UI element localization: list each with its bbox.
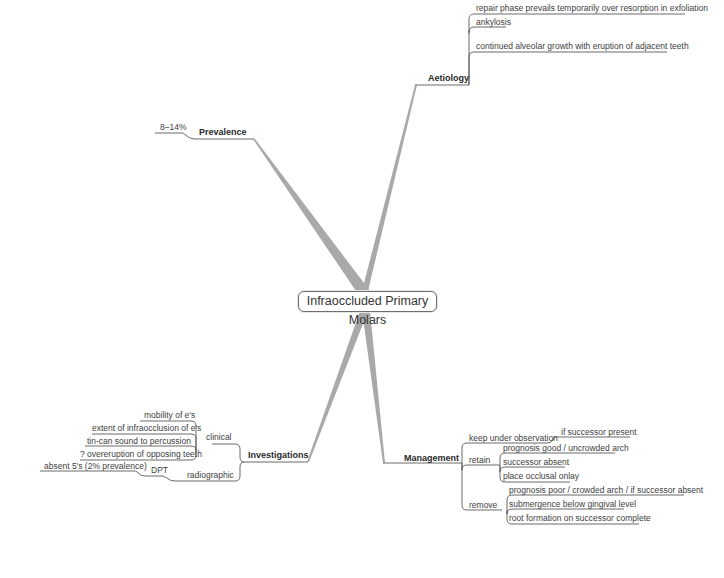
branch-prevalence [253, 139, 370, 291]
remove-item[interactable]: prognosis poor / crowded arch / if succe… [509, 485, 703, 495]
retain-item[interactable]: prognosis good / uncrowded arch [503, 443, 629, 453]
central-topic[interactable]: Infraoccluded Primary Molars [298, 291, 437, 312]
management-keep[interactable]: keep under observation [469, 433, 558, 443]
topic-prevalence[interactable]: Prevalence [199, 127, 247, 137]
investigations-clinical[interactable]: clinical [206, 432, 232, 442]
management-remove[interactable]: remove [469, 500, 497, 510]
mind-map-canvas: Infraoccluded Primary Molars Aetiology r… [0, 0, 724, 578]
investigations-radiographic[interactable]: radiographic [187, 470, 234, 480]
clinical-item[interactable]: mobility of e's [144, 410, 195, 420]
radiographic-dpt[interactable]: DPT [151, 465, 168, 475]
clinical-item[interactable]: tin-can sound to percussion [87, 436, 191, 446]
clinical-item[interactable]: extent of infraocclusion of e's [92, 423, 201, 433]
branch-investigations [307, 311, 368, 462]
aetiology-item[interactable]: continued alveolar growth with eruption … [476, 41, 689, 51]
dpt-item[interactable]: absent 5's (2% prevalence) [44, 461, 147, 471]
retain-item[interactable]: place occlusal onlay [503, 471, 579, 481]
branch-aetiology [362, 85, 417, 291]
clinical-item[interactable]: ? overeruption of opposing teeth [80, 449, 202, 459]
remove-item[interactable]: root formation on successor complete [509, 513, 651, 523]
remove-item[interactable]: submergence below gingival level [509, 499, 636, 509]
aetiology-item[interactable]: repair phase prevails temporarily over r… [476, 3, 708, 13]
topic-investigations[interactable]: Investigations [248, 450, 309, 460]
prevalence-value[interactable]: 8–14% [160, 122, 186, 132]
branch-management [362, 311, 385, 463]
topic-aetiology[interactable]: Aetiology [428, 73, 469, 83]
management-retain[interactable]: retain [469, 455, 490, 465]
keep-item[interactable]: if successor present [561, 427, 637, 437]
topic-management[interactable]: Management [404, 453, 459, 463]
retain-item[interactable]: successor absent [503, 457, 569, 467]
aetiology-item[interactable]: ankylosis [476, 17, 511, 27]
